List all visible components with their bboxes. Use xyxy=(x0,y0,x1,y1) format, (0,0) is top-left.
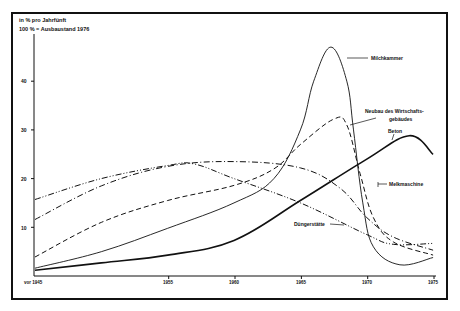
label-melkmaschine: Melkmaschine xyxy=(389,181,423,187)
series-line-melkmaschine xyxy=(35,162,433,251)
x-tick-label: 1970 xyxy=(362,280,373,285)
x-tick-label: 1965 xyxy=(296,280,307,285)
x-tick-label: 1955 xyxy=(163,280,174,285)
label-neubau: Neubau des Wirtschafts- xyxy=(365,108,424,114)
line-chart: in % pro Jahrfünft 100 % = Ausbaustand 1… xyxy=(0,0,460,311)
label-beton: Beton xyxy=(388,128,402,134)
y-tick-label: 40 xyxy=(21,78,27,84)
x-tick-label: 1975 xyxy=(428,280,439,285)
label-milchkammer: Milchkammer xyxy=(371,55,403,61)
chart-title: in % pro Jahrfünft xyxy=(19,17,66,23)
series-line-neubau-des-wirtschaftsgebäudes xyxy=(35,117,433,257)
x-ticks: vor 1945 1955 1960 1965 1970 1975 xyxy=(24,276,439,285)
series-line-düngerstätte xyxy=(35,163,433,245)
y-ticks: 10 20 30 40 xyxy=(21,78,34,230)
label-neubau-2: gebäudes xyxy=(389,116,413,122)
x-tick-label: vor 1945 xyxy=(24,280,43,285)
label-duengerstaette: Düngerstätte xyxy=(294,221,325,227)
y-tick-label: 20 xyxy=(21,176,27,182)
series-line-milchkammer xyxy=(35,47,433,268)
x-tick-label: 1960 xyxy=(229,280,240,285)
chart-subtitle: 100 % = Ausbaustand 1976 xyxy=(19,26,89,32)
series-layer xyxy=(35,47,433,270)
y-tick-label: 10 xyxy=(21,225,27,231)
y-tick-label: 30 xyxy=(21,127,27,133)
